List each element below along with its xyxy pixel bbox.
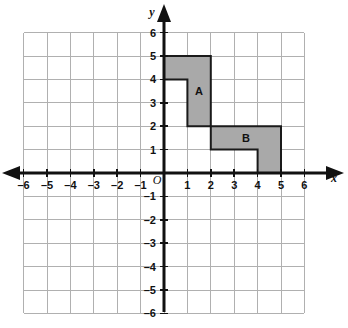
shape-label-a: A	[195, 85, 203, 97]
y-tick-label: 3	[150, 97, 156, 109]
y-tick-label: –4	[144, 261, 157, 273]
x-tick-label: –2	[111, 179, 123, 191]
y-tick-label: 2	[150, 120, 156, 132]
y-tick-label: –6	[144, 307, 156, 319]
axes-layer	[2, 4, 344, 312]
y-axis-label: y	[147, 5, 155, 19]
x-tick-label: 1	[184, 179, 190, 191]
coordinate-grid-figure: –6–5–4–3–2–1123456654321–1–2–3–4–5–6 AB …	[0, 0, 348, 328]
x-tick-label: 6	[301, 179, 307, 191]
coordinate-plane-svg: –6–5–4–3–2–1123456654321–1–2–3–4–5–6 AB …	[0, 0, 348, 328]
y-tick-label: 6	[150, 27, 156, 39]
shape-layer	[164, 56, 281, 173]
x-tick-label: –3	[88, 179, 100, 191]
y-tick-label: –1	[144, 190, 156, 202]
y-tick-label: –2	[144, 214, 156, 226]
y-tick-label: 5	[150, 50, 156, 62]
x-axis-arrow-left-icon	[2, 166, 20, 180]
x-tick-label: 5	[278, 179, 284, 191]
x-tick-label: –5	[41, 179, 53, 191]
x-tick-label: 2	[208, 179, 214, 191]
y-tick-label: 1	[150, 144, 156, 156]
x-axis-label: x	[330, 171, 337, 185]
y-tick-label: 4	[150, 73, 157, 85]
x-tick-label: –6	[17, 179, 29, 191]
shaded-polygon-a	[164, 56, 211, 126]
origin-label: O	[153, 173, 162, 187]
y-tick-label: –5	[144, 284, 156, 296]
x-tick-label: –4	[64, 179, 77, 191]
x-tick-label: 4	[255, 179, 262, 191]
x-tick-label: –1	[134, 179, 146, 191]
y-tick-label: –3	[144, 237, 156, 249]
shape-label-b: B	[242, 132, 250, 144]
y-axis-arrow-up-icon	[157, 4, 171, 22]
x-tick-label: 3	[231, 179, 237, 191]
